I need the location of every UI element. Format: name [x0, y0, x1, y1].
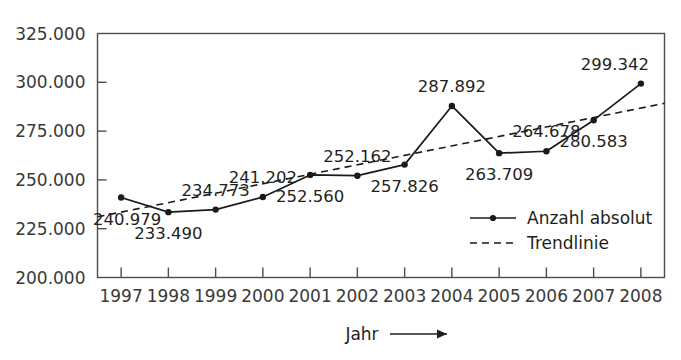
data-label-1998: 233.490 [134, 224, 202, 243]
x-tick-label-2004: 2004 [430, 286, 473, 306]
x-tick-label-1999: 1999 [194, 286, 237, 306]
data-point-2005 [496, 150, 502, 156]
legend-label-trendlinie: Trendlinie [526, 233, 609, 253]
legend-label-anzahl-absolut: Anzahl absolut [527, 208, 653, 228]
legend-dot-marker-icon [490, 215, 496, 221]
chart-container: 200.000225.000250.000275.000300.000325.0… [0, 0, 681, 360]
data-point-1999 [212, 206, 218, 212]
data-label-2001: 252.560 [276, 187, 344, 206]
data-point-1997 [118, 194, 124, 200]
x-tick-label-2005: 2005 [477, 286, 520, 306]
data-label-2003: 257.826 [371, 177, 439, 196]
data-point-2004 [449, 103, 455, 109]
x-tick-label-2007: 2007 [572, 286, 615, 306]
data-label-2004: 287.892 [418, 77, 486, 96]
x-tick-label-2001: 2001 [288, 286, 331, 306]
x-tick-label-2002: 2002 [336, 286, 379, 306]
data-label-2007: 280.583 [560, 132, 628, 151]
x-axis-title-text: Jahr [344, 324, 378, 344]
data-point-2001 [307, 172, 313, 178]
data-label-2008: 299.342 [581, 55, 649, 74]
x-tick-label-2008: 2008 [619, 286, 662, 306]
data-point-1998 [165, 209, 171, 215]
data-label-2000: 241.202 [229, 168, 297, 187]
line-chart: 200.000225.000250.000275.000300.000325.0… [0, 0, 681, 360]
data-point-2000 [260, 194, 266, 200]
data-point-2007 [590, 117, 596, 123]
x-tick-label-2006: 2006 [525, 286, 568, 306]
data-point-2002 [354, 172, 360, 178]
data-point-2008 [638, 80, 644, 86]
y-tick-label: 200.000 [15, 268, 85, 288]
x-tick-label-1998: 1998 [147, 286, 190, 306]
y-tick-label: 300.000 [15, 72, 85, 92]
data-point-2003 [401, 161, 407, 167]
x-tick-label-2003: 2003 [383, 286, 426, 306]
y-tick-label: 250.000 [15, 170, 85, 190]
data-point-2006 [543, 148, 549, 154]
data-label-2002: 252.162 [323, 147, 391, 166]
y-tick-label: 275.000 [15, 121, 85, 141]
y-tick-label: 325.000 [15, 24, 85, 44]
data-label-2005: 263.709 [465, 165, 533, 184]
x-tick-label-2000: 2000 [241, 286, 284, 306]
y-tick-label: 225.000 [15, 219, 85, 239]
x-tick-label-1997: 1997 [99, 286, 142, 306]
